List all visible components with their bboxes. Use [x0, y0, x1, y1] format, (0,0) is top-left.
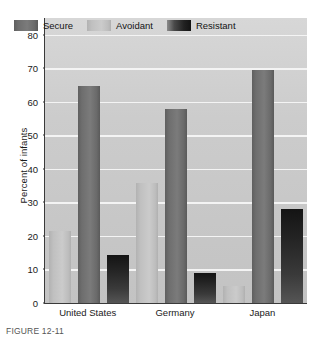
bar-japan-avoidant [223, 286, 245, 303]
y-tick-label: 30 [16, 197, 38, 208]
gridline [45, 35, 307, 37]
bar-united-states-secure [78, 86, 100, 303]
legend-item-secure: Secure [14, 20, 73, 31]
bar-germany-resistant [194, 273, 216, 303]
y-tick-label: 50 [16, 130, 38, 141]
secure-swatch-icon [14, 20, 38, 31]
chart-legend: SecureAvoidantResistant [14, 20, 236, 31]
bar-japan-resistant [281, 209, 303, 303]
bar-united-states-avoidant [49, 231, 71, 303]
y-tick-label: 20 [16, 230, 38, 241]
legend-label: Avoidant [116, 20, 153, 31]
resistant-swatch-icon [167, 20, 191, 31]
y-tick-label: 10 [16, 264, 38, 275]
y-tick-label: 70 [16, 63, 38, 74]
bar-germany-avoidant [136, 183, 158, 303]
figure-caption: FIGURE 12-11 [6, 326, 312, 336]
bar-germany-secure [165, 109, 187, 303]
legend-item-avoidant: Avoidant [87, 20, 153, 31]
bar-japan-secure [252, 70, 274, 303]
x-axis-labels: United StatesGermanyJapan [44, 307, 306, 325]
x-axis-label-japan: Japan [249, 307, 275, 318]
legend-item-resistant: Resistant [167, 20, 236, 31]
plot-area [44, 18, 307, 304]
legend-label: Secure [43, 20, 73, 31]
figure-container: Percent of infants 01020304050607080 Sec… [0, 0, 314, 339]
y-tick-label: 60 [16, 96, 38, 107]
avoidant-swatch-icon [87, 20, 111, 31]
y-tick-label: 0 [16, 298, 38, 309]
bar-united-states-resistant [107, 255, 129, 303]
x-axis-label-united-states: United States [59, 307, 116, 318]
y-tick-label: 40 [16, 163, 38, 174]
y-axis-ticks: 01020304050607080 [10, 0, 38, 339]
x-axis-label-germany: Germany [155, 307, 194, 318]
legend-label: Resistant [196, 20, 236, 31]
